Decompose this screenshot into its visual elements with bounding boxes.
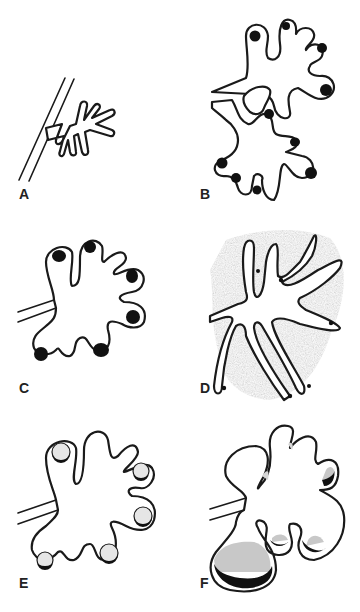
panel-c-drawing — [18, 241, 145, 361]
panel-b-drawing — [212, 20, 334, 200]
panel-label-a: A — [19, 186, 29, 202]
panel-label-e: E — [19, 575, 28, 591]
panel-label-f: F — [200, 575, 209, 591]
panel-label-b: B — [200, 186, 210, 202]
panel-d-drawing — [210, 230, 344, 400]
panel-label-d: D — [200, 380, 210, 396]
panel-f-drawing — [210, 426, 344, 592]
panel-e-drawing — [18, 432, 155, 570]
panel-label-c: C — [19, 380, 29, 396]
figure-canvas — [0, 0, 360, 612]
panel-a-drawing — [19, 78, 115, 181]
